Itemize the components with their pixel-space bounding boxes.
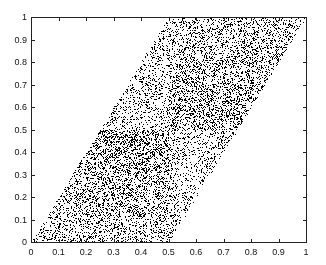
x-tick-mark: [59, 239, 60, 243]
x-tick-mark: [279, 239, 280, 243]
y-tick-mark: [303, 220, 307, 221]
y-tick-mark: [31, 62, 35, 63]
x-tick-label: 0.6: [190, 247, 203, 257]
y-tick-mark: [303, 175, 307, 176]
x-tick-label: 0.1: [52, 247, 65, 257]
y-tick-mark: [31, 242, 35, 243]
x-tick-mark: [196, 239, 197, 243]
x-tick-mark: [141, 239, 142, 243]
y-tick-mark: [31, 220, 35, 221]
x-tick-mark: [86, 239, 87, 243]
y-tick-mark: [31, 107, 35, 108]
y-tick-mark: [31, 152, 35, 153]
x-tick-label: 0: [28, 247, 33, 257]
x-tick-mark: [279, 17, 280, 21]
x-tick-mark: [224, 239, 225, 243]
scatter-plot-area: [31, 17, 307, 243]
y-tick-mark: [31, 17, 35, 18]
x-tick-mark: [114, 17, 115, 21]
y-tick-label: 0.4: [3, 147, 27, 157]
y-tick-label: 0.2: [3, 192, 27, 202]
y-tick-mark: [31, 175, 35, 176]
y-tick-mark: [303, 85, 307, 86]
x-tick-label: 0.4: [135, 247, 148, 257]
x-tick-label: 0.2: [80, 247, 93, 257]
y-tick-mark: [303, 62, 307, 63]
y-tick-mark: [303, 197, 307, 198]
y-tick-mark: [31, 197, 35, 198]
x-tick-mark: [169, 17, 170, 21]
y-tick-mark: [303, 242, 307, 243]
x-tick-mark: [86, 17, 87, 21]
y-tick-mark: [31, 130, 35, 131]
y-tick-label: 0.7: [3, 80, 27, 90]
y-tick-label: 1: [3, 12, 27, 22]
y-tick-label: 0.6: [3, 102, 27, 112]
x-tick-mark: [169, 239, 170, 243]
x-tick-mark: [114, 239, 115, 243]
y-tick-label: 0.3: [3, 170, 27, 180]
y-tick-label: 0.5: [3, 125, 27, 135]
x-tick-mark: [251, 239, 252, 243]
scatter-figure: 00.10.20.30.40.50.60.70.80.9100.10.20.30…: [0, 0, 326, 265]
y-tick-label: 0.9: [3, 35, 27, 45]
y-tick-mark: [303, 107, 307, 108]
y-tick-label: 0.8: [3, 57, 27, 67]
y-tick-mark: [303, 152, 307, 153]
x-tick-label: 0.3: [107, 247, 120, 257]
x-tick-label: 0.9: [272, 247, 285, 257]
y-tick-mark: [303, 17, 307, 18]
x-tick-label: 0.5: [162, 247, 175, 257]
x-tick-label: 0.8: [245, 247, 258, 257]
x-tick-label: 0.7: [217, 247, 230, 257]
y-tick-mark: [31, 85, 35, 86]
y-tick-label: 0.1: [3, 215, 27, 225]
x-tick-mark: [141, 17, 142, 21]
x-tick-mark: [59, 17, 60, 21]
x-tick-label: 1: [303, 247, 308, 257]
x-tick-mark: [251, 17, 252, 21]
y-tick-mark: [303, 40, 307, 41]
y-tick-mark: [31, 40, 35, 41]
y-tick-label: 0: [3, 237, 27, 247]
x-tick-mark: [196, 17, 197, 21]
x-tick-mark: [224, 17, 225, 21]
y-tick-mark: [303, 130, 307, 131]
